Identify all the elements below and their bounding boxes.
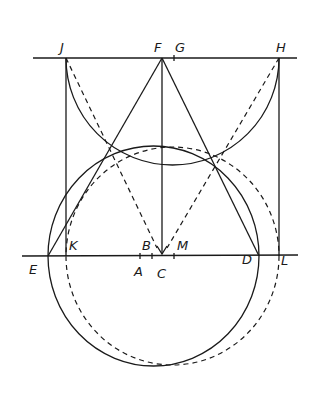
geometry-diagram: J F G H K B M D L E A C [0, 0, 322, 401]
dashed-line-J-C [66, 58, 157, 248]
label-B: B [142, 238, 151, 253]
line-F-E [48, 58, 162, 256]
label-C: C [157, 266, 167, 281]
label-E: E [29, 262, 38, 277]
dashed-line-H-C [167, 58, 279, 248]
label-J: J [57, 40, 64, 55]
label-L: L [281, 253, 288, 268]
label-M: M [177, 238, 188, 253]
label-D: D [242, 252, 252, 267]
line-F-D [162, 58, 259, 256]
label-F: F [154, 40, 162, 55]
label-A: A [133, 264, 143, 279]
bottom-horizontal-line [22, 255, 298, 256]
label-G: G [175, 40, 185, 55]
upper-arc-J-H [66, 58, 279, 165]
label-H: H [276, 40, 286, 55]
label-K: K [69, 238, 79, 253]
